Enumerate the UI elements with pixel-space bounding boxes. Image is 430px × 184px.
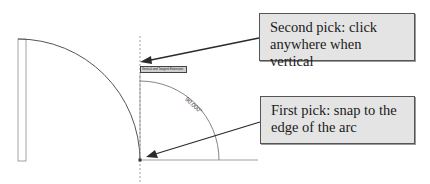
first-pick-callout: First pick: snap to the edge of the arc: [260, 96, 415, 144]
wall-rectangle: [18, 39, 26, 161]
second-pick-arrowhead: [140, 56, 152, 64]
second-pick-callout: Second pick: click anywhere when vertica…: [259, 13, 415, 61]
first-pick-arrow-line: [152, 122, 260, 155]
snap-tooltip: Vertical and Tangent Extension: [140, 66, 187, 73]
door-swing-arc: [18, 39, 140, 161]
second-pick-arrow-line: [146, 38, 259, 61]
snap-point-marker: [139, 159, 142, 162]
angle-dimension-arc: [140, 81, 219, 160]
first-pick-arrowhead: [146, 150, 158, 158]
